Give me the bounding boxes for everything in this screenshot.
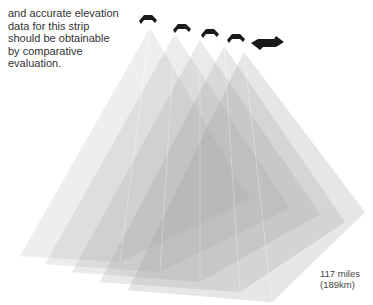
direction-arrow-icon [251,36,284,50]
satellite-icon [227,34,245,43]
swath-width-miles: 117 miles [320,268,360,279]
satellite-icon [139,15,157,24]
satellite-icon [173,24,191,33]
satellite-icon [201,29,219,38]
swath-width-label: 117 miles (189km) [320,268,360,290]
view-frustums [20,28,365,302]
swath-width-km: (189km) [320,279,360,290]
imaging-diagram [0,0,373,305]
satellite-icons [139,15,284,50]
